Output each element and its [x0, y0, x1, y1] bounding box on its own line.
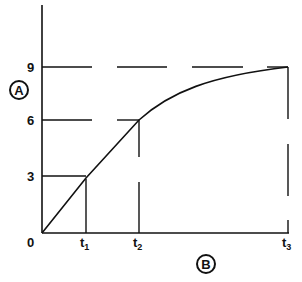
y-tick-3: 3 — [27, 169, 34, 184]
svg-text:A: A — [14, 83, 24, 98]
curve-line — [42, 67, 288, 233]
svg-text:B: B — [201, 257, 210, 272]
y-axis-label: A — [10, 81, 28, 99]
x-tick-t1: t1 — [80, 235, 89, 252]
x-tick-t2: t2 — [133, 235, 142, 252]
origin-label: 0 — [27, 235, 34, 250]
x-axis-label: B — [197, 255, 215, 273]
chart: 9 6 3 0 t1 t2 t3 A B — [0, 0, 302, 282]
x-tick-t3: t3 — [282, 235, 291, 252]
y-tick-6: 6 — [27, 113, 34, 128]
y-tick-9: 9 — [27, 60, 34, 75]
